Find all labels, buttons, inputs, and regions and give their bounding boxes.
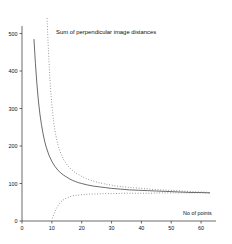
- data-series-group: [34, 19, 210, 219]
- y-tick-label: 100: [9, 181, 18, 187]
- axes-group: [22, 26, 216, 221]
- y-tick-label: 200: [9, 143, 18, 149]
- y-tick-label: 300: [9, 106, 18, 112]
- chart-figure: 0100200300400500 0102030405060 Sum of pe…: [0, 0, 232, 244]
- x-tick-label: 20: [79, 225, 85, 231]
- x-tick-label: 30: [109, 225, 115, 231]
- plot-canvas: 0100200300400500 0102030405060 Sum of pe…: [0, 0, 232, 244]
- x-tick-label: 50: [168, 225, 174, 231]
- series-upper-dotted-curve: [47, 19, 210, 193]
- x-tick-label: 60: [198, 225, 204, 231]
- x-axis-ticks: 0102030405060: [21, 221, 205, 231]
- x-tick-label: 0: [21, 225, 24, 231]
- y-tick-label: 400: [9, 68, 18, 74]
- x-tick-label: 10: [49, 225, 55, 231]
- x-axis-title: No of points: [183, 210, 212, 216]
- series-solid-curve: [34, 39, 210, 193]
- y-tick-label: 500: [9, 31, 18, 37]
- y-tick-label: 0: [15, 218, 18, 224]
- y-axis-ticks: 0100200300400500: [9, 31, 23, 225]
- chart-title: Sum of perpendicular image distances: [56, 29, 156, 35]
- x-tick-label: 40: [138, 225, 144, 231]
